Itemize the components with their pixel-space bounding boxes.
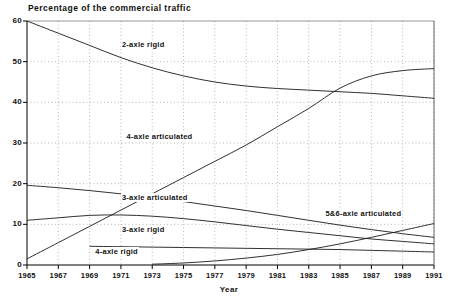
y-tick-label: 20 [2, 179, 22, 188]
series-label: 4-axle articulated [126, 132, 194, 141]
x-tick-label: 1973 [135, 271, 169, 280]
x-tick-label: 1981 [260, 271, 294, 280]
x-tick-label: 1991 [417, 271, 451, 280]
x-tick-label: 1983 [292, 271, 326, 280]
x-tick-label: 1969 [73, 271, 107, 280]
x-tick-label: 1989 [386, 271, 420, 280]
y-tick-label: 60 [2, 16, 22, 25]
x-tick-label: 1975 [167, 271, 201, 280]
y-tick-label: 10 [2, 219, 22, 228]
x-tick-label: 1979 [229, 271, 263, 280]
x-tick-label: 1967 [41, 271, 75, 280]
x-axis-title: Year [0, 285, 458, 294]
y-tick-label: 40 [2, 97, 22, 106]
y-tick-label: 50 [2, 57, 22, 66]
x-tick-label: 1977 [198, 271, 232, 280]
plot-area [0, 0, 458, 304]
series-label: 3-axle articulated [121, 193, 189, 202]
series-label: 4-axle rigid [94, 247, 139, 256]
x-tick-label: 1985 [323, 271, 357, 280]
y-tick-label: 0 [2, 260, 22, 269]
x-tick-label: 1987 [354, 271, 388, 280]
series-label: 2-axle rigid [121, 40, 166, 49]
x-tick-label: 1965 [10, 271, 44, 280]
series-label: 5&6-axle articulated [324, 209, 402, 218]
x-tick-label: 1971 [104, 271, 138, 280]
line-chart: Percentage of the commercial traffic 010… [0, 0, 458, 304]
y-tick-label: 30 [2, 138, 22, 147]
series-label: 3-axle rigid [121, 225, 166, 234]
